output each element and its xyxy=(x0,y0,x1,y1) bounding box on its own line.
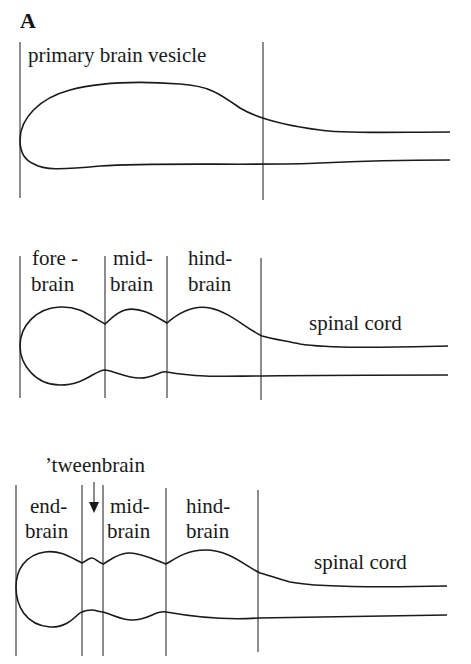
label-hindbrain-1: hind- xyxy=(186,494,230,518)
label-endbrain-2: brain xyxy=(25,519,69,543)
label-spinal-cord: spinal cord xyxy=(309,311,402,335)
label-midbrain-2: brain xyxy=(107,519,151,543)
arrow-head-icon xyxy=(89,502,99,513)
label-hindbrain-2: brain xyxy=(186,519,230,543)
label-forebrain-1: fore - xyxy=(32,246,78,270)
label-endbrain-1: end- xyxy=(30,494,67,518)
label-hindbrain-2: brain xyxy=(188,272,232,296)
label-midbrain-1: mid- xyxy=(110,494,150,518)
stage-three-vesicle: fore - brain mid- brain hind- brain spin… xyxy=(20,246,448,400)
label-tweenbrain: ’tweenbrain xyxy=(45,453,145,477)
vesicle-outline xyxy=(20,82,450,168)
label-midbrain-2: brain xyxy=(110,272,154,296)
brain-development-diagram: A primary brain vesicle fore - brain mid… xyxy=(0,0,471,664)
label-forebrain-2: brain xyxy=(31,272,75,296)
stage-five-vesicle: ’tweenbrain end- brain mid- brain hind- … xyxy=(16,453,447,656)
label-primary-brain-vesicle: primary brain vesicle xyxy=(28,43,206,67)
label-midbrain-1: mid- xyxy=(113,246,153,270)
panel-label: A xyxy=(20,8,36,33)
stage-primary-vesicle: primary brain vesicle xyxy=(20,42,450,200)
label-hindbrain-1: hind- xyxy=(188,246,232,270)
label-spinal-cord: spinal cord xyxy=(314,550,407,574)
